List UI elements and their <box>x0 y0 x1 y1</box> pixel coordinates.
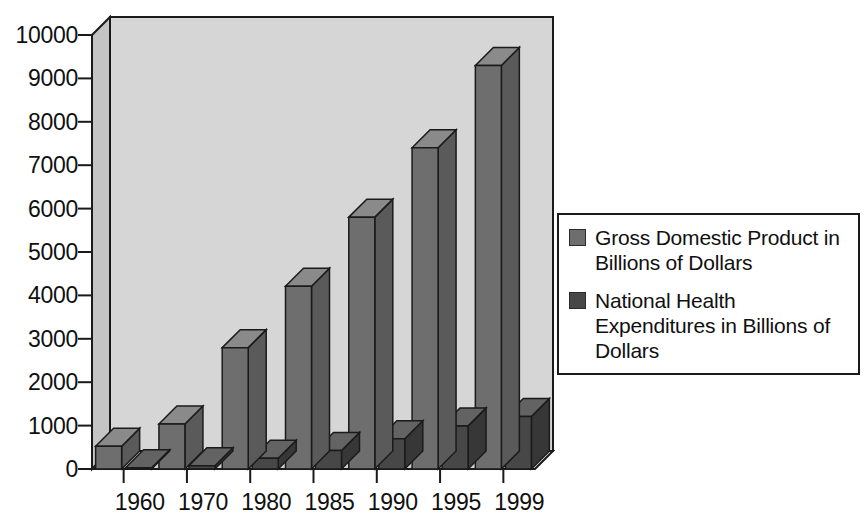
bar-gdp-1990-front <box>349 217 375 469</box>
bar-gdp-1960-front <box>96 446 122 469</box>
legend-item-label: Gross Domestic Product in Billions of Do… <box>595 225 850 275</box>
x-tick-label: 1970 <box>178 491 228 514</box>
legend-swatch-icon <box>569 229 586 246</box>
legend-item-gdp: Gross Domestic Product in Billions of Do… <box>569 225 850 275</box>
bar-gdp-1980-side <box>248 330 266 469</box>
legend-item-nhe: National Health Expenditures in Billions… <box>569 288 850 363</box>
bar-gdp-1970-front <box>159 424 185 469</box>
y-axis-ticks <box>78 35 92 469</box>
left-wall <box>92 17 110 469</box>
x-tick-label: 1985 <box>305 491 355 514</box>
bar-gdp-1985-side <box>312 268 330 469</box>
x-tick-label: 1960 <box>115 491 165 514</box>
bar-gdp-1990-side <box>375 199 393 469</box>
x-tick-label: 1990 <box>368 491 418 514</box>
bar-chart: 0100020003000400050006000700080009000100… <box>0 0 868 519</box>
legend-item-label: National Health Expenditures in Billions… <box>595 288 850 363</box>
bar-nhe-1970-front <box>189 466 215 469</box>
x-tick-label: 1999 <box>494 491 544 514</box>
legend-swatch-icon <box>569 292 586 309</box>
x-axis-ticks <box>124 469 504 483</box>
x-tick-label: 1995 <box>431 491 481 514</box>
bar-gdp-1999-side <box>501 47 519 469</box>
chart-legend: Gross Domestic Product in Billions of Do… <box>557 213 860 375</box>
bar-gdp-1995-side <box>438 130 456 469</box>
bar-nhe-1960-front <box>126 468 152 469</box>
x-tick-label: 1980 <box>241 491 291 514</box>
